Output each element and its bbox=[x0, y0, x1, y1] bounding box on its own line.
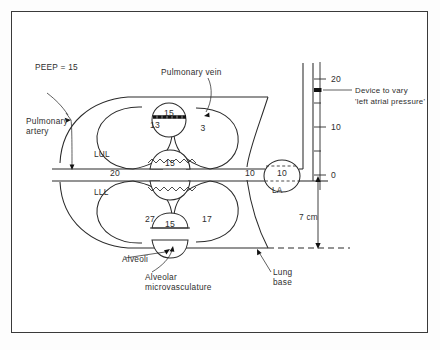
lung-base-label-line2: base bbox=[273, 277, 292, 287]
pressure-lower-alveolar: 15 bbox=[165, 219, 175, 229]
device-label-line1: Device to vary bbox=[355, 86, 408, 95]
pressure-upper-arterial: 13 bbox=[150, 120, 160, 130]
pv-leader bbox=[206, 78, 211, 112]
height-dimension-label: 7 cm bbox=[299, 212, 318, 222]
lung-base-leader bbox=[260, 254, 271, 272]
alveoli-label: Alveoli bbox=[122, 254, 148, 264]
pulmonary-artery-label-line1: Pulmonary bbox=[26, 116, 69, 126]
alveolar-micro-label-line2: microvasculature bbox=[145, 282, 212, 292]
lung-base-label-line1: Lung bbox=[273, 267, 293, 277]
scale-label-20: 20 bbox=[331, 74, 341, 84]
outer-arc-lower-right bbox=[196, 181, 238, 242]
alveolus-mid-lower bbox=[148, 181, 196, 200]
pa-leader bbox=[47, 93, 68, 115]
lung-right-lower-edge bbox=[247, 180, 268, 248]
device-label-line2: 'left atrial pressure' bbox=[355, 97, 425, 106]
device-marker-block[interactable] bbox=[314, 88, 322, 92]
lll-label: LLL bbox=[94, 187, 109, 197]
pressure-lower-venous: 17 bbox=[202, 214, 212, 224]
pressure-pulmonary-vein: 10 bbox=[245, 168, 255, 178]
la-label: LA bbox=[272, 185, 283, 195]
outer-arc-upper-left bbox=[97, 107, 142, 169]
lung-base-leader-arrow bbox=[257, 249, 262, 255]
pressure-scale bbox=[314, 62, 326, 190]
la-vein-junction bbox=[266, 170, 276, 180]
alveolar-micro-label-line1: Alveolar bbox=[145, 272, 177, 282]
pulmonary-vein-label: Pulmonary vein bbox=[161, 67, 222, 77]
lung-right-upper-edge bbox=[247, 97, 268, 167]
pressure-mid-alveolar: 15 bbox=[165, 158, 175, 168]
pressure-upper-venous: 3 bbox=[201, 123, 206, 133]
lung-circulation-diagram: PEEP = 15 Pulmonary artery Pulmonary vei… bbox=[0, 0, 440, 350]
pressure-left-atrium: 10 bbox=[277, 168, 287, 178]
pulmonary-artery-trunk bbox=[52, 169, 133, 181]
pressure-upper-alveolar: 15 bbox=[164, 108, 174, 118]
outer-arc-upper-right bbox=[196, 108, 238, 169]
figure-page: PEEP = 15 Pulmonary artery Pulmonary vei… bbox=[0, 0, 440, 350]
scale-label-0: 0 bbox=[331, 170, 336, 180]
pv-leader-arrow bbox=[204, 112, 210, 117]
pulmonary-artery-label-line2: artery bbox=[26, 126, 49, 136]
peep-label: PEEP = 15 bbox=[35, 62, 78, 72]
scale-label-10: 10 bbox=[331, 122, 341, 132]
reservoir-column bbox=[303, 63, 313, 181]
pulmonary-vein-trunk bbox=[210, 169, 265, 181]
pressure-pulmonary-artery: 20 bbox=[110, 168, 120, 178]
pa-leader-down bbox=[71, 120, 72, 167]
lul-label: LUL bbox=[94, 149, 110, 159]
pressure-lower-arterial: 27 bbox=[145, 214, 155, 224]
